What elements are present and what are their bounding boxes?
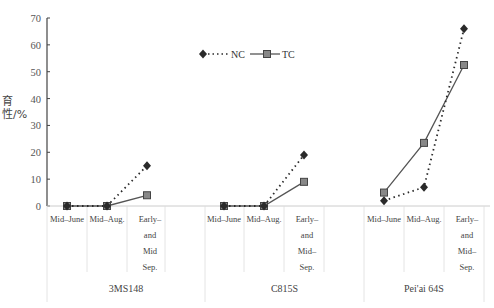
y-tick-label: 10 xyxy=(31,174,42,185)
category-label: Early– xyxy=(456,214,479,224)
tc-marker-square-icon xyxy=(301,178,308,185)
y-tick-label: 40 xyxy=(31,94,42,105)
category-label: Mid–June xyxy=(50,214,84,224)
legend-tc-square-icon xyxy=(264,51,271,58)
category-label: and xyxy=(144,230,157,240)
category-label: Mid–Aug. xyxy=(89,214,124,224)
category-label: Mid–June xyxy=(207,214,241,224)
legend-tc-label: TC xyxy=(282,49,295,60)
y-tick-label: 50 xyxy=(31,67,42,78)
category-label: Mid– xyxy=(298,246,317,256)
category-label: Mid xyxy=(143,246,158,256)
tc-marker-square-icon xyxy=(461,62,468,69)
tc-line xyxy=(384,65,464,193)
category-label: Mid–Aug. xyxy=(246,214,281,224)
nc-line xyxy=(67,166,147,206)
tc-marker-square-icon xyxy=(144,192,151,199)
category-label: Mid– xyxy=(458,246,477,256)
plot-area: 010203040506070Mid–JuneMid–Aug.Early–and… xyxy=(0,0,494,308)
category-label: and xyxy=(461,230,474,240)
legend-nc-label: NC xyxy=(231,49,245,60)
category-label: Mid–Aug. xyxy=(406,214,441,224)
category-label: Sep. xyxy=(143,262,158,272)
nc-marker-diamond-icon xyxy=(460,24,468,33)
tc-marker-square-icon xyxy=(421,139,428,146)
category-label: Early– xyxy=(296,214,319,224)
y-tick-label: 70 xyxy=(31,13,42,24)
fertility-line-chart: 010203040506070Mid–JuneMid–Aug.Early–and… xyxy=(0,0,494,308)
nc-line xyxy=(384,29,464,201)
legend-nc-diamond-icon xyxy=(199,50,207,59)
category-label: Sep. xyxy=(300,262,315,272)
y-tick-label: 30 xyxy=(31,120,42,131)
y-tick-label: 20 xyxy=(31,147,42,158)
nc-marker-diamond-icon xyxy=(143,161,151,170)
category-label: Sep. xyxy=(460,262,475,272)
category-label: Early– xyxy=(139,214,162,224)
y-tick-label: 60 xyxy=(31,40,42,51)
group-label: C815S xyxy=(271,283,298,294)
nc-marker-diamond-icon xyxy=(420,183,428,192)
nc-line xyxy=(224,155,304,206)
category-label: Mid–June xyxy=(367,214,401,224)
y-axis-label: 育性/% xyxy=(2,95,16,121)
category-label: and xyxy=(301,230,314,240)
group-label: 3MS148 xyxy=(109,283,143,294)
group-label: Pei'ai 64S xyxy=(404,283,444,294)
y-tick-label: 0 xyxy=(36,201,41,212)
tc-marker-square-icon xyxy=(381,189,388,196)
nc-marker-diamond-icon xyxy=(380,196,388,205)
